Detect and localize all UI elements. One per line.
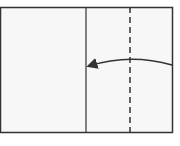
fold-diagram [0, 0, 180, 146]
